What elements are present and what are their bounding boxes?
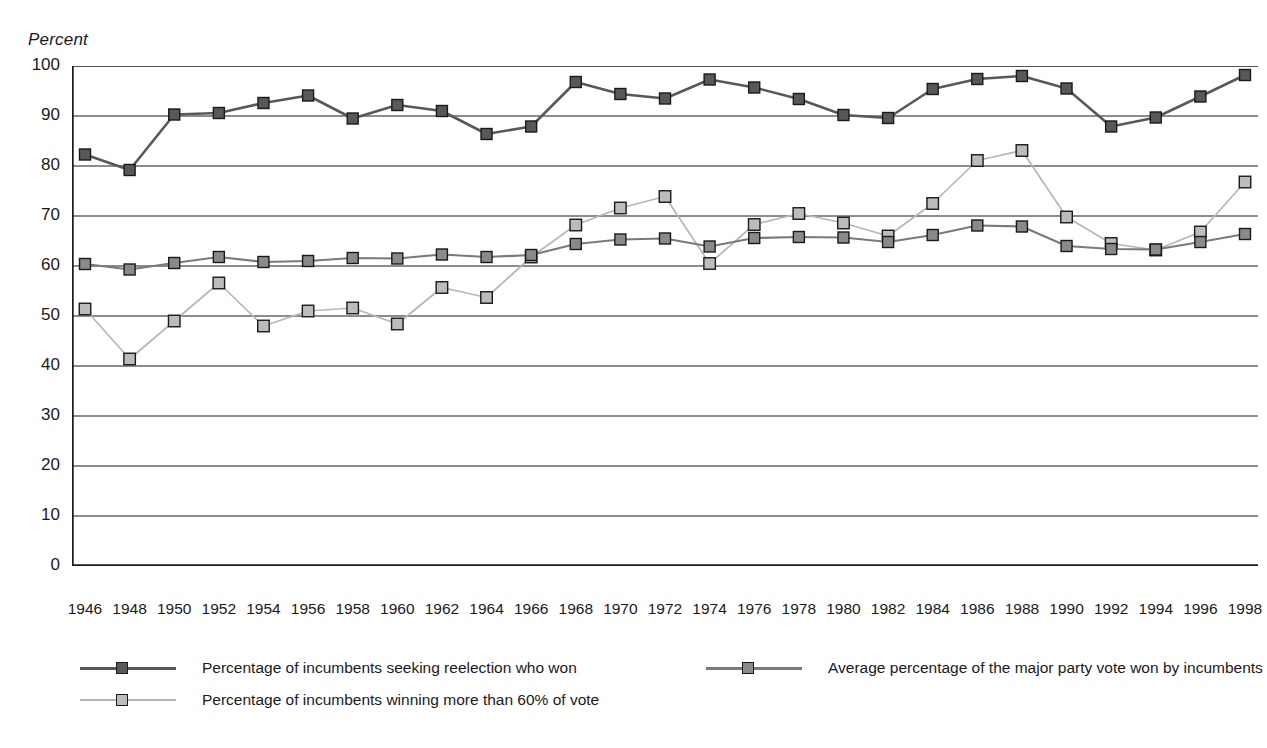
data-point: [392, 318, 404, 330]
data-point: [615, 202, 627, 214]
data-point: [1061, 241, 1072, 252]
data-point: [1240, 229, 1251, 240]
x-tick-label: 1994: [1134, 600, 1178, 618]
x-tick-label: 1974: [688, 600, 732, 618]
y-tick-label: 30: [14, 405, 60, 425]
x-tick-label: 1972: [643, 600, 687, 618]
x-tick-label: 1996: [1178, 600, 1222, 618]
data-point: [1240, 70, 1251, 81]
data-point: [615, 89, 626, 100]
series-1: [80, 220, 1251, 275]
data-point: [570, 219, 582, 231]
data-point: [1150, 112, 1161, 123]
data-point: [481, 292, 493, 304]
legend-label: Average percentage of the major party vo…: [828, 659, 1263, 677]
data-point: [793, 94, 804, 105]
data-point: [526, 250, 537, 261]
data-point: [481, 252, 492, 263]
data-point: [258, 98, 269, 109]
y-axis-title: Percent: [28, 30, 88, 50]
data-point: [1195, 237, 1206, 248]
data-point: [124, 264, 135, 275]
data-point: [168, 315, 180, 327]
data-point: [1239, 176, 1251, 188]
x-tick-label: 1954: [241, 600, 285, 618]
data-point: [392, 100, 403, 111]
x-tick-label: 1982: [866, 600, 910, 618]
data-point: [258, 257, 269, 268]
data-point: [347, 113, 358, 124]
data-point: [660, 233, 671, 244]
x-tick-label: 1956: [286, 600, 330, 618]
data-point: [169, 258, 180, 269]
data-point: [481, 129, 492, 140]
data-point: [1016, 221, 1027, 232]
y-tick-label: 20: [14, 455, 60, 475]
data-point: [526, 121, 537, 132]
data-point: [748, 219, 760, 231]
data-point: [972, 74, 983, 85]
data-point: [793, 208, 805, 220]
data-point: [79, 303, 91, 315]
data-point: [570, 77, 581, 88]
data-point: [169, 109, 180, 120]
x-tick-label: 1988: [1000, 600, 1044, 618]
x-tick-label: 1984: [911, 600, 955, 618]
legend-marker-icon: [116, 662, 128, 674]
chart-legend: Percentage of incumbents seeking reelect…: [0, 655, 1258, 725]
data-point: [213, 252, 224, 263]
data-point: [883, 113, 894, 124]
data-point: [704, 241, 715, 252]
y-tick-label: 100: [14, 55, 60, 75]
y-tick-label: 50: [14, 305, 60, 325]
data-point: [347, 302, 359, 314]
data-point: [1106, 244, 1117, 255]
legend-marker-icon: [742, 662, 754, 674]
x-tick-label: 1976: [732, 600, 776, 618]
data-point: [124, 165, 135, 176]
x-axis-tick-labels: 1946194819501952195419561958196019621964…: [0, 600, 1258, 626]
data-point: [258, 320, 270, 332]
x-tick-label: 1978: [777, 600, 821, 618]
x-tick-label: 1964: [465, 600, 509, 618]
data-point: [436, 249, 447, 260]
data-point: [1061, 211, 1073, 223]
legend-item[interactable]: Percentage of incumbents seeking reelect…: [80, 659, 577, 677]
data-point: [303, 90, 314, 101]
legend-label: Percentage of incumbents seeking reelect…: [202, 659, 577, 677]
x-tick-label: 1968: [554, 600, 598, 618]
legend-line-icon: [706, 667, 802, 670]
legend-swatch: [80, 693, 176, 707]
data-point: [660, 93, 671, 104]
data-point: [1061, 83, 1072, 94]
data-point: [927, 230, 938, 241]
data-point: [838, 110, 849, 121]
x-tick-label: 1980: [821, 600, 865, 618]
chart-svg: [72, 66, 1258, 566]
y-tick-label: 90: [14, 105, 60, 125]
y-tick-label: 40: [14, 355, 60, 375]
x-tick-label: 1990: [1045, 600, 1089, 618]
gridlines: [72, 66, 1258, 516]
data-point: [972, 155, 984, 167]
data-point: [749, 233, 760, 244]
x-tick-label: 1958: [331, 600, 375, 618]
x-tick-label: 1998: [1223, 600, 1267, 618]
data-point: [213, 108, 224, 119]
data-point: [1106, 121, 1117, 132]
y-tick-label: 60: [14, 255, 60, 275]
data-point: [1016, 71, 1027, 82]
y-tick-label: 0: [14, 555, 60, 575]
data-point: [749, 82, 760, 93]
x-tick-label: 1970: [598, 600, 642, 618]
legend-item[interactable]: Average percentage of the major party vo…: [706, 659, 1263, 677]
legend-swatch: [80, 661, 176, 675]
data-point: [436, 106, 447, 117]
x-tick-label: 1966: [509, 600, 553, 618]
series-2: [79, 145, 1251, 365]
data-point: [704, 258, 716, 270]
data-point: [302, 305, 314, 317]
legend-item[interactable]: Percentage of incumbents winning more th…: [80, 691, 599, 709]
data-point: [570, 239, 581, 250]
data-point: [1016, 145, 1027, 157]
